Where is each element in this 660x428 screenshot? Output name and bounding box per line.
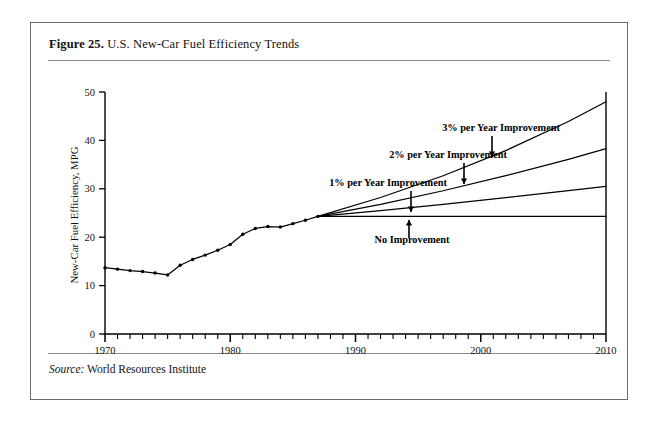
- y-tick-label: 40: [85, 135, 96, 146]
- data-point-marker: [304, 219, 307, 222]
- annotation-label: 1% per Year Improvement: [329, 177, 447, 188]
- annotation-arrow-head: [461, 179, 467, 185]
- data-point-marker: [204, 253, 207, 256]
- y-tick-label: 0: [90, 329, 95, 340]
- y-tick-label: 50: [85, 87, 96, 98]
- x-tick-label: 1980: [220, 345, 241, 356]
- annotation-label: 3% per Year Improvement: [442, 122, 560, 133]
- data-point-marker: [191, 258, 194, 261]
- series-line: [318, 186, 606, 216]
- data-markers-layer: [103, 215, 319, 277]
- x-tick-label: 1990: [345, 345, 366, 356]
- data-point-marker: [128, 269, 131, 272]
- y-axis-title-group: New-Car Fuel Efficiency, MPG: [68, 146, 80, 283]
- annotation-label: 2% per Year Improvement: [389, 149, 507, 160]
- data-point-marker: [116, 267, 119, 270]
- data-point-marker: [153, 271, 156, 274]
- y-tick-label: 20: [85, 232, 96, 243]
- y-tick-label: 30: [85, 183, 96, 194]
- y-tick-label: 10: [85, 280, 96, 291]
- data-point-marker: [103, 266, 106, 269]
- data-point-marker: [241, 233, 244, 236]
- data-point-marker: [229, 243, 232, 246]
- annotation-label: No Improvement: [374, 234, 450, 245]
- data-point-marker: [254, 227, 257, 230]
- data-point-marker: [316, 215, 319, 218]
- data-point-marker: [216, 249, 219, 252]
- x-tick-label: 2000: [470, 345, 491, 356]
- y-axis-ticks: 01020304050: [85, 87, 106, 340]
- annotation-layer: 3% per Year Improvement2% per Year Impro…: [329, 122, 560, 245]
- data-point-marker: [291, 222, 294, 225]
- data-point-marker: [166, 273, 169, 276]
- x-tick-label: 1970: [95, 345, 116, 356]
- annotation-arrow-head: [408, 207, 414, 213]
- annotation-arrow-head: [406, 220, 412, 226]
- data-point-marker: [266, 225, 269, 228]
- chart-canvas: New-Car Fuel Efficiency, MPG 01020304050…: [0, 0, 660, 428]
- x-tick-label: 2010: [596, 345, 617, 356]
- data-point-marker: [141, 270, 144, 273]
- data-point-marker: [279, 225, 282, 228]
- x-axis-ticks: 19701980199020002010: [95, 334, 617, 356]
- data-point-marker: [178, 264, 181, 267]
- y-axis-title: New-Car Fuel Efficiency, MPG: [68, 146, 80, 283]
- series-line: [105, 216, 318, 275]
